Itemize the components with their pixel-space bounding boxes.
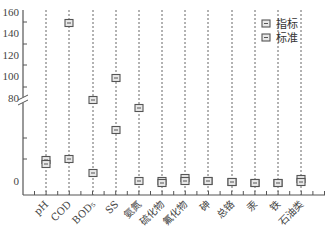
marker-index (228, 179, 236, 186)
y-tick-label: 120 (3, 49, 20, 61)
y-tick-labels: 801001201401600 (3, 6, 20, 187)
x-category-label: 石油类 (276, 198, 306, 228)
x-category-label: BOD₅ (70, 199, 97, 226)
legend-entry: 指标 (262, 17, 298, 31)
y-tick-label: 140 (3, 27, 20, 39)
x-category-label: SS (103, 199, 120, 216)
legend-label: 指标 (276, 17, 298, 31)
y-tick-label: 0 (14, 175, 20, 187)
legend-entry: 标准 (262, 31, 298, 45)
marker-index (274, 180, 282, 187)
marker-standard (65, 20, 73, 27)
x-category-label: pH (32, 198, 51, 217)
marker-index (65, 156, 73, 163)
markers (42, 20, 305, 187)
x-category-labels: pHCODBOD₅SS氨氮硫化物氟化物砷总铬汞铁石油类 (32, 198, 305, 228)
y-tick-label: 100 (3, 70, 20, 82)
chart: 801001201401600 pHCODBOD₅SS氨氮硫化物氟化物砷总铬汞铁… (0, 0, 329, 232)
x-category-label: COD (49, 199, 74, 224)
legend: 指标标准 (262, 17, 298, 45)
marker-index (297, 179, 305, 186)
x-category-label: 氟化物 (160, 198, 190, 228)
x-category-label: 砷 (198, 199, 213, 214)
x-category-label: 汞 (245, 199, 260, 214)
marker-index (42, 161, 50, 168)
marker-index (181, 178, 189, 185)
marker-index (112, 127, 120, 134)
legend-label: 标准 (276, 31, 298, 45)
marker-standard (135, 105, 143, 112)
marker-index (135, 178, 143, 185)
marker-index (89, 170, 97, 177)
x-category-label: 铁 (267, 198, 283, 214)
marker-standard (89, 97, 97, 104)
marker-index (251, 180, 259, 187)
x-category-label: 硫化物 (137, 198, 167, 228)
y-tick-label: 160 (3, 6, 20, 18)
marker-standard (112, 75, 120, 82)
y-tick-label: 80 (8, 92, 20, 104)
x-category-label: 总铬 (214, 198, 237, 221)
marker-index (158, 180, 166, 187)
marker-index (204, 178, 212, 185)
